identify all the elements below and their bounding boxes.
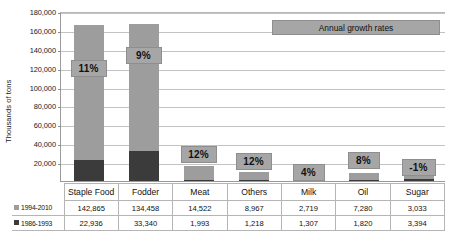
legend-entry: 1994-2010 xyxy=(12,201,64,216)
data-table-body: Staple FoodFodderMeatOthersMilkOilSugar1… xyxy=(12,184,445,231)
plot-area: 11%9%12%12%4%8%-1% xyxy=(60,12,445,182)
table-cell: 1,820 xyxy=(336,216,390,231)
y-axis-tick-label: 80,000 xyxy=(34,102,56,111)
y-axis-tick-label: 20,000 xyxy=(34,159,56,168)
table-cell: 2,719 xyxy=(281,201,335,216)
growth-rate-callout: -1% xyxy=(402,159,436,176)
y-axis-tick-label: 60,000 xyxy=(34,121,56,130)
y-axis-tickmark xyxy=(58,107,61,108)
growth-rate-callout: 9% xyxy=(126,47,162,64)
y-axis-tickmark xyxy=(58,32,61,33)
table-column-header: Fodder xyxy=(118,184,172,201)
table-cell: 1,307 xyxy=(281,216,335,231)
y-axis-tickmark xyxy=(58,89,61,90)
growth-rate-callout: 12% xyxy=(181,146,217,163)
legend-label: 1986-1993 xyxy=(21,220,52,227)
table-cell: 22,936 xyxy=(64,216,118,231)
growth-rate-callout: 12% xyxy=(236,153,272,170)
y-axis-title: Thousands of tons xyxy=(2,56,16,166)
y-axis-tick-label: 40,000 xyxy=(34,140,56,149)
legend-label: 1994-2010 xyxy=(21,204,52,211)
table-cell: 33,340 xyxy=(118,216,172,231)
y-axis-tickmark xyxy=(58,145,61,146)
y-axis-tickmark xyxy=(58,13,61,14)
table-cell: 14,522 xyxy=(173,201,227,216)
y-axis-tick-labels: 180,000160,000140,000120,000100,00080,00… xyxy=(18,12,58,182)
bar-segment-1986-1993 xyxy=(74,160,104,182)
bar-segment-1994-2010 xyxy=(349,173,379,180)
y-axis-tick-label: 140,000 xyxy=(30,45,56,54)
y-axis-tick-label: 120,000 xyxy=(30,64,56,73)
light-gray-swatch xyxy=(14,205,19,210)
annual-growth-rates-banner: Annual growth rates xyxy=(272,20,440,35)
table-column-header: Others xyxy=(227,184,281,201)
table-cell: 3,394 xyxy=(390,216,444,231)
y-axis-tickmark xyxy=(58,51,61,52)
legend-entry: 1986-1993 xyxy=(12,216,64,231)
table-row: 1994-2010142,865134,45814,5228,9672,7197… xyxy=(12,201,445,216)
y-axis-tick-label: 100,000 xyxy=(30,83,56,92)
table-cell: 1,993 xyxy=(173,216,227,231)
y-axis-tickmark xyxy=(58,126,61,127)
table-cell: 3,033 xyxy=(390,201,444,216)
table-cell: 142,865 xyxy=(64,201,118,216)
bar-segment-1994-2010 xyxy=(239,172,269,180)
column-oil: 8% xyxy=(336,13,391,182)
y-axis-tickmark xyxy=(58,70,61,71)
bar-segment-1994-2010 xyxy=(184,166,214,180)
dark-gray-swatch xyxy=(14,220,19,225)
column-staple-food: 11% xyxy=(61,13,116,182)
table-cell: 8,967 xyxy=(227,201,281,216)
table-header-row: Staple FoodFodderMeatOthersMilkOilSugar xyxy=(12,184,445,201)
table-row: 1986-199322,93633,3401,9931,2181,3071,82… xyxy=(12,216,445,231)
growth-rate-callout: 11% xyxy=(71,60,107,77)
bar-segment-1994-2010 xyxy=(404,176,434,179)
table-column-header: Meat xyxy=(173,184,227,201)
table-column-header: Oil xyxy=(336,184,390,201)
data-table: Staple FoodFodderMeatOthersMilkOilSugar1… xyxy=(12,183,445,231)
table-cell: 134,458 xyxy=(118,201,172,216)
column-others: 12% xyxy=(226,13,281,182)
table-column-header: Milk xyxy=(281,184,335,201)
y-axis-tick-label: 180,000 xyxy=(30,8,56,17)
y-axis-tick-label: 160,000 xyxy=(30,26,56,35)
table-cell: 7,280 xyxy=(336,201,390,216)
growth-rate-callout: 4% xyxy=(293,164,325,181)
table-corner-cell xyxy=(12,184,64,201)
column-meat: 12% xyxy=(171,13,226,182)
column-fodder: 9% xyxy=(116,13,171,182)
growth-rate-callout: 8% xyxy=(348,152,380,169)
table-column-header: Sugar xyxy=(390,184,444,201)
table-column-header: Staple Food xyxy=(64,184,118,201)
y-axis-tickmark xyxy=(58,164,61,165)
bar-segment-1994-2010 xyxy=(74,25,104,160)
growth-rates-stacked-column-chart: Thousands of tons 180,000160,000140,0001… xyxy=(0,0,450,242)
column-milk: 4% xyxy=(281,13,336,182)
bar-segment-1986-1993 xyxy=(129,151,159,182)
table-cell: 1,218 xyxy=(227,216,281,231)
bar-segment-1994-2010 xyxy=(129,24,159,151)
columns-group: 11%9%12%12%4%8%-1% xyxy=(61,13,445,182)
column-sugar: -1% xyxy=(391,13,446,182)
x-axis-baseline xyxy=(61,181,445,182)
